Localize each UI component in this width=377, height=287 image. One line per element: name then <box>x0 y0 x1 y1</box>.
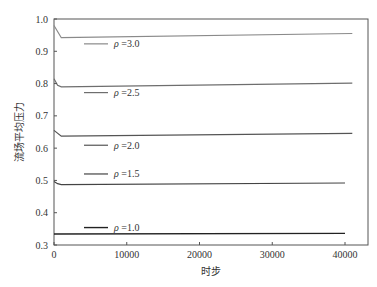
x-tick-label: 10000 <box>114 249 139 260</box>
series-line-1 <box>54 79 352 87</box>
series-line-2 <box>54 130 352 136</box>
axes: 0.30.40.50.60.70.80.91.00100002000030000… <box>36 14 358 261</box>
x-axis-title: 时步 <box>201 266 221 277</box>
plot-border <box>54 19 368 245</box>
x-tick-label: 0 <box>52 249 57 260</box>
x-tick-label: 20000 <box>187 249 212 260</box>
y-tick-label: 1.0 <box>36 14 49 25</box>
legend-label: ρ =2.5 <box>113 87 139 98</box>
series-line-0 <box>54 26 352 38</box>
y-axis-title: 流场平均压力 <box>13 102 25 162</box>
pressure-line-chart: ρ =3.0ρ =2.5ρ =2.0ρ =1.5ρ =1.0 0.30.40.5… <box>0 0 377 287</box>
series-layer <box>54 26 352 235</box>
y-tick-label: 0.4 <box>36 207 49 218</box>
y-tick-label: 0.7 <box>36 110 49 121</box>
y-tick-label: 0.8 <box>36 78 49 89</box>
x-tick-label: 30000 <box>260 249 285 260</box>
y-tick-label: 0.3 <box>36 240 49 251</box>
legend-label: ρ =3.0 <box>113 38 139 49</box>
y-tick-label: 0.5 <box>36 175 49 186</box>
x-tick-label: 40000 <box>333 249 358 260</box>
legend-label: ρ =1.5 <box>113 168 139 179</box>
plot-frame <box>54 19 368 245</box>
series-line-4 <box>54 233 345 234</box>
legend-label: ρ =2.0 <box>113 140 139 151</box>
y-tick-label: 0.9 <box>36 46 49 57</box>
y-tick-label: 0.6 <box>36 143 49 154</box>
series-line-3 <box>54 181 345 184</box>
legend-label: ρ =1.0 <box>113 222 139 233</box>
